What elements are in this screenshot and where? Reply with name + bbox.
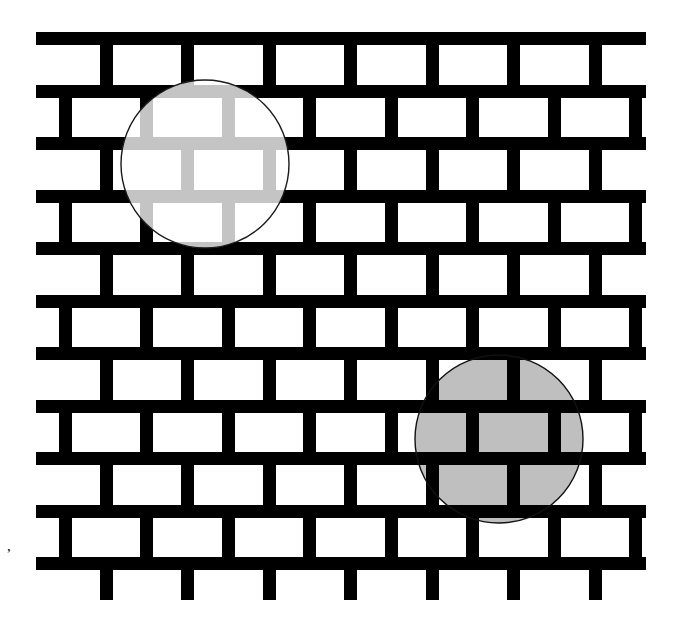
mortar-joint xyxy=(36,347,646,360)
mortar-joint xyxy=(303,98,316,138)
mortar-joint xyxy=(181,45,194,85)
mortar-joint xyxy=(589,150,602,190)
mortar-joint xyxy=(263,45,276,85)
mortar-joint xyxy=(263,465,276,505)
mortar-joint xyxy=(426,45,439,85)
mortar-joint xyxy=(548,518,561,558)
mortar-joint xyxy=(344,150,357,190)
mortar-joint xyxy=(36,32,646,45)
mortar-joint xyxy=(59,518,72,558)
mortar-joint xyxy=(222,413,235,453)
mortar-joint xyxy=(629,413,642,453)
mortar-joint xyxy=(426,570,439,600)
mortar-joint xyxy=(426,255,439,295)
mortar-joint xyxy=(100,570,113,600)
mortar-joint xyxy=(303,518,316,558)
mortar-joint xyxy=(140,308,153,348)
mortar-joint xyxy=(181,150,194,190)
mortar-joint xyxy=(303,203,316,243)
mortar-joint xyxy=(548,98,561,138)
mortar-joint xyxy=(59,413,72,453)
mortar-joint xyxy=(629,308,642,348)
mortar-joint xyxy=(303,413,316,453)
mortar-joint xyxy=(59,98,72,138)
mortar-joint xyxy=(385,308,398,348)
mortar-joint xyxy=(344,465,357,505)
brick-wall-canvas: , xyxy=(0,0,680,629)
mortar-joint xyxy=(507,150,520,190)
stray-mark-layer: , xyxy=(7,538,11,554)
mortar-joint xyxy=(548,203,561,243)
mortar-joint xyxy=(507,465,520,505)
mortar-joint xyxy=(222,98,235,138)
mortar-joint xyxy=(466,98,479,138)
mortar-joint xyxy=(589,465,602,505)
mortar-joint xyxy=(263,360,276,400)
mortar-joint xyxy=(140,413,153,453)
mortar-joint xyxy=(426,150,439,190)
wall-base-layer xyxy=(36,32,646,600)
mortar-joint xyxy=(344,45,357,85)
mortar-joint xyxy=(507,255,520,295)
mortar-joint xyxy=(385,98,398,138)
mortar-joint xyxy=(263,150,276,190)
mortar-joint xyxy=(36,85,646,98)
mortar-joint xyxy=(507,570,520,600)
mortar-joint xyxy=(466,518,479,558)
mortar-joint xyxy=(629,98,642,138)
mortar-joint xyxy=(589,45,602,85)
mortar-joint xyxy=(263,570,276,600)
mortar-joint xyxy=(36,557,646,570)
mortar-joint xyxy=(100,150,113,190)
stray-comma-mark: , xyxy=(7,538,11,554)
mortar-joint xyxy=(629,518,642,558)
mortar-joint xyxy=(100,360,113,400)
mortar-joint xyxy=(36,295,646,308)
mortar-joint xyxy=(222,308,235,348)
mortar-joint xyxy=(140,518,153,558)
mortar-joint xyxy=(466,308,479,348)
mortar-joint xyxy=(100,45,113,85)
mortar-joint xyxy=(507,45,520,85)
mortar-joint xyxy=(385,518,398,558)
mortar-joint xyxy=(507,360,520,400)
mortar-joint xyxy=(36,242,646,255)
brick-wall-figure: , xyxy=(0,0,680,629)
mortar-joint xyxy=(181,465,194,505)
mortar-joint xyxy=(344,255,357,295)
mortar-joint xyxy=(589,255,602,295)
mortar-joint xyxy=(344,570,357,600)
mortar-joint xyxy=(181,570,194,600)
mortar-joint xyxy=(385,203,398,243)
mortar-joint xyxy=(100,465,113,505)
mortar-joint xyxy=(36,505,646,518)
mortar-joint xyxy=(181,255,194,295)
mortar-joint xyxy=(629,203,642,243)
mortar-joint xyxy=(59,308,72,348)
mortar-joint xyxy=(344,360,357,400)
mortar-joint xyxy=(222,203,235,243)
mortar-joint xyxy=(466,203,479,243)
mortar-joint xyxy=(181,360,194,400)
mortar-joint xyxy=(263,255,276,295)
mortar-joint xyxy=(466,413,479,453)
mortar-joint xyxy=(222,518,235,558)
mortar-joint xyxy=(589,570,602,600)
mortar-joint xyxy=(100,255,113,295)
mortar-joint xyxy=(385,413,398,453)
mortar-joint xyxy=(589,360,602,400)
mortar-joint xyxy=(59,203,72,243)
mortar-joint xyxy=(548,413,561,453)
mortar-joint xyxy=(548,308,561,348)
mortar-joint xyxy=(303,308,316,348)
